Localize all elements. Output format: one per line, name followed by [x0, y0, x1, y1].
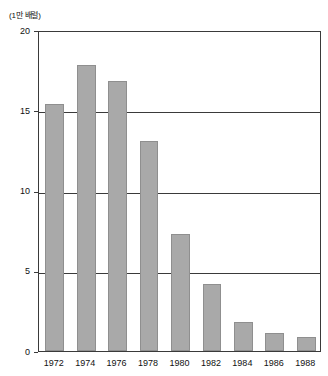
x-tick-label-1986: 1986 — [258, 358, 289, 368]
y-tick-mark-15 — [34, 111, 38, 112]
bar-1974 — [77, 65, 96, 351]
bar-1988 — [297, 337, 316, 351]
y-tick-label-15: 15 — [0, 107, 30, 116]
bar-1986 — [265, 333, 284, 351]
bars-layer — [39, 32, 320, 351]
x-tick-label-1984: 1984 — [227, 358, 258, 368]
bar-chart-figure: (1만 배럴) 05101520 19721974197619781980198… — [0, 0, 328, 376]
y-tick-mark-0 — [34, 352, 38, 353]
x-tick-label-1980: 1980 — [164, 358, 195, 368]
y-tick-mark-10 — [34, 192, 38, 193]
y-tick-label-20: 20 — [0, 27, 30, 36]
y-tick-label-10: 10 — [0, 187, 30, 196]
x-tick-label-1974: 1974 — [69, 358, 100, 368]
y-tick-label-5: 5 — [0, 267, 30, 276]
y-tick-label-0: 0 — [0, 348, 30, 357]
x-tick-label-1978: 1978 — [132, 358, 163, 368]
bar-1984 — [234, 322, 253, 351]
x-tick-label-1988: 1988 — [290, 358, 321, 368]
plot-area — [38, 31, 321, 352]
bar-1980 — [171, 234, 190, 351]
bar-1982 — [203, 284, 222, 351]
y-tick-mark-5 — [34, 272, 38, 273]
bar-1976 — [108, 81, 127, 351]
y-tick-mark-20 — [34, 31, 38, 32]
bar-1972 — [45, 104, 64, 351]
x-tick-label-1976: 1976 — [101, 358, 132, 368]
bar-1978 — [140, 141, 159, 351]
x-tick-label-1982: 1982 — [195, 358, 226, 368]
x-tick-label-1972: 1972 — [38, 358, 69, 368]
y-axis-unit-label: (1만 배럴) — [9, 11, 41, 21]
